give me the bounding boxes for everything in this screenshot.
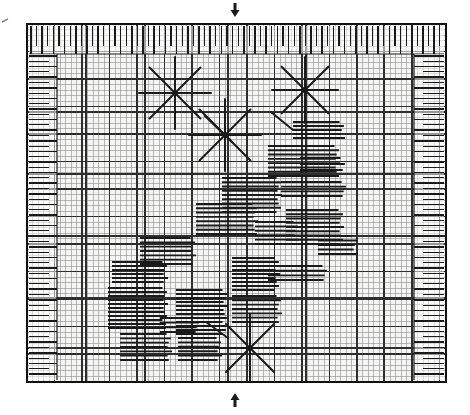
left-tick-band: [29, 54, 57, 380]
chart-canvas: [0, 0, 470, 415]
starburst-center: [303, 88, 306, 91]
starburst-4: [216, 314, 284, 382]
cluster-o: [232, 296, 282, 322]
cluster-k: [232, 258, 280, 290]
starburst-center: [173, 91, 176, 94]
starburst-1: [139, 57, 211, 129]
cluster-h: [140, 238, 196, 264]
starburst-center: [248, 346, 251, 349]
cluster-c: [222, 178, 282, 212]
top-band-backing: [29, 26, 444, 54]
scanned-chart-svg: [0, 0, 470, 415]
right-tick-band: [414, 54, 444, 380]
starburst-center: [223, 133, 226, 136]
cluster-p: [120, 334, 172, 360]
top-tick-band: [29, 26, 444, 54]
starburst-2: [272, 57, 338, 123]
starburst-3: [189, 99, 261, 171]
